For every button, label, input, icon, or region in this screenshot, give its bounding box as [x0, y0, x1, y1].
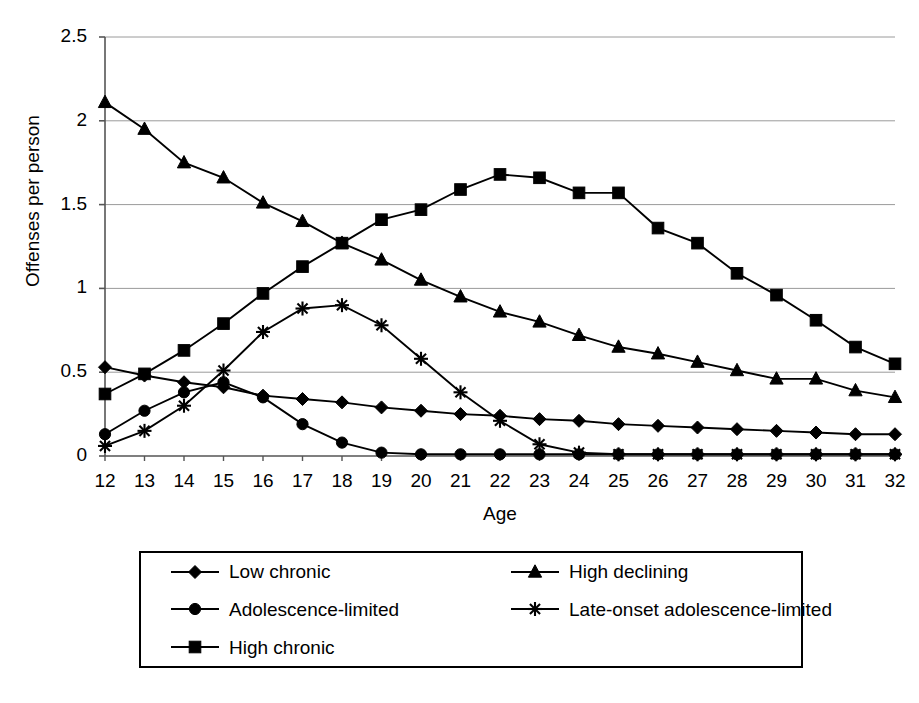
x-axis-title: Age	[105, 503, 895, 525]
data-point-square	[297, 261, 309, 273]
data-point-square	[99, 388, 111, 400]
x-tick-label: 24	[559, 470, 599, 492]
plot-area: Offenses per person Age 00.511.522.5 121…	[0, 0, 919, 540]
data-point-circle	[139, 405, 150, 416]
data-point-circle	[415, 449, 426, 460]
data-point-asterisk	[888, 447, 902, 461]
chart-figure: Offenses per person Age 00.511.522.5 121…	[0, 0, 919, 703]
data-point-diamond	[849, 428, 862, 441]
data-point-asterisk	[296, 302, 310, 316]
data-point-square	[731, 268, 743, 280]
data-point-circle	[336, 437, 347, 448]
data-point-asterisk	[493, 414, 507, 428]
data-point-square	[613, 187, 625, 199]
x-tick-label: 13	[125, 470, 165, 492]
data-point-square	[257, 288, 269, 300]
data-point-square	[771, 289, 783, 301]
data-point-square	[218, 318, 230, 330]
data-point-triangle	[414, 273, 427, 285]
x-tick-label: 14	[164, 470, 204, 492]
data-point-circle	[494, 449, 505, 460]
data-point-diamond	[731, 423, 744, 436]
data-point-asterisk	[138, 424, 152, 438]
data-point-diamond	[296, 393, 309, 406]
x-tick-label: 19	[362, 470, 402, 492]
data-point-circle	[218, 377, 229, 388]
x-tick-label: 16	[243, 470, 283, 492]
data-point-triangle	[296, 214, 309, 226]
data-point-diamond	[652, 419, 665, 432]
legend-item-circle[interactable]: Adolescence-limited	[169, 598, 509, 620]
data-point-asterisk	[612, 447, 626, 461]
legend-item-label: Late-onset adolescence-limited	[569, 600, 832, 619]
data-point-square	[810, 314, 822, 326]
series-line-3	[105, 102, 895, 397]
data-point-diamond	[454, 408, 467, 421]
y-tick-label: 0.5	[27, 360, 87, 382]
legend-marker-triangle-icon	[509, 561, 561, 583]
x-tick-label: 31	[836, 470, 876, 492]
data-point-circle	[99, 429, 110, 440]
data-point-square	[494, 169, 506, 181]
data-point-circle	[257, 392, 268, 403]
series-line-2	[105, 174, 895, 394]
data-point-diamond	[375, 401, 388, 414]
legend-item-label: High declining	[569, 562, 688, 581]
x-tick-label: 30	[796, 470, 836, 492]
series-markers-3	[98, 95, 901, 402]
data-point-circle	[178, 387, 189, 398]
x-tick-label: 12	[85, 470, 125, 492]
data-point-asterisk	[770, 447, 784, 461]
x-tick-label: 20	[401, 470, 441, 492]
data-point-diamond	[770, 424, 783, 437]
data-point-asterisk	[528, 602, 542, 616]
legend-item-label: Low chronic	[229, 562, 330, 581]
data-point-asterisk	[691, 447, 705, 461]
data-point-circle	[376, 447, 387, 458]
data-point-asterisk	[217, 364, 231, 378]
data-point-square	[573, 187, 585, 199]
data-point-diamond	[573, 414, 586, 427]
data-point-circle	[455, 449, 466, 460]
line-chart-svg	[0, 0, 919, 540]
data-point-square	[652, 222, 664, 234]
data-point-square	[850, 341, 862, 353]
data-point-asterisk	[177, 399, 191, 413]
data-point-asterisk	[651, 447, 665, 461]
data-point-asterisk	[849, 447, 863, 461]
legend-item-triangle[interactable]: High declining	[509, 561, 832, 583]
data-point-asterisk	[98, 439, 112, 453]
legend: Low chronicHigh decliningAdolescence-lim…	[139, 551, 803, 668]
x-tick-label: 18	[322, 470, 362, 492]
data-point-square	[415, 204, 427, 216]
y-tick-label: 0	[27, 444, 87, 466]
data-point-triangle	[528, 565, 541, 577]
data-point-asterisk	[375, 318, 389, 332]
x-tick-label: 32	[875, 470, 915, 492]
data-point-asterisk	[414, 352, 428, 366]
x-tick-label: 15	[204, 470, 244, 492]
legend-item-diamond[interactable]: Low chronic	[169, 561, 509, 583]
legend-marker-diamond-icon	[169, 561, 221, 583]
x-tick-label: 21	[441, 470, 481, 492]
data-point-asterisk	[533, 437, 547, 451]
data-point-diamond	[810, 426, 823, 439]
data-point-diamond	[189, 565, 202, 578]
data-point-triangle	[256, 196, 269, 208]
data-point-square	[889, 358, 901, 370]
data-point-square	[534, 172, 546, 184]
legend-marker-square-icon	[169, 636, 221, 658]
data-point-triangle	[98, 95, 111, 107]
x-tick-label: 25	[599, 470, 639, 492]
legend-item-square[interactable]: High chronic	[169, 636, 509, 658]
legend-item-asterisk[interactable]: Late-onset adolescence-limited	[509, 598, 832, 620]
legend-item-label: Adolescence-limited	[229, 600, 399, 619]
x-tick-label: 28	[717, 470, 757, 492]
data-point-asterisk	[809, 447, 823, 461]
data-point-square	[692, 237, 704, 249]
data-point-asterisk	[454, 385, 468, 399]
y-tick-label: 2.5	[27, 25, 87, 47]
x-tick-label: 27	[678, 470, 718, 492]
data-point-triangle	[138, 122, 151, 134]
x-tick-label: 22	[480, 470, 520, 492]
